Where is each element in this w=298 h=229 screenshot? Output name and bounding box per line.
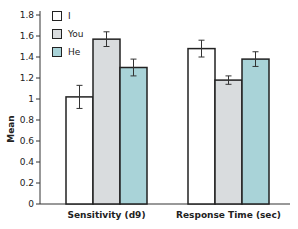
- bar-chart: 00.20.40.60.811.21.41.61.8 Mean IYouHe S…: [0, 0, 298, 229]
- category-label: Response Time (sec): [169, 210, 289, 220]
- y-tick-label: 1.6: [8, 31, 34, 41]
- y-tick-label: 1.8: [8, 10, 34, 20]
- legend-label: I: [68, 11, 71, 21]
- bar-i: [188, 49, 215, 204]
- legend-swatch: [52, 29, 62, 39]
- y-axis-label: Mean: [6, 114, 16, 144]
- legend-item-i: I: [52, 10, 71, 21]
- bar-i: [66, 97, 93, 204]
- bar-he: [242, 59, 269, 204]
- category-label: Sensitivity (d9): [47, 210, 167, 220]
- y-tick-label: 1.4: [8, 52, 34, 62]
- y-tick-label: 1.2: [8, 73, 34, 83]
- y-tick-label: 0.4: [8, 157, 34, 167]
- legend-swatch: [52, 11, 62, 21]
- legend-label: He: [68, 47, 80, 57]
- legend-label: You: [68, 29, 84, 39]
- bar-he: [120, 68, 147, 205]
- legend-item-you: You: [52, 28, 84, 39]
- plot-area: [0, 0, 298, 229]
- y-tick-label: 0: [8, 199, 34, 209]
- bar-you: [215, 80, 242, 204]
- y-tick-label: 1: [8, 94, 34, 104]
- legend-item-he: He: [52, 46, 80, 57]
- bar-you: [93, 39, 120, 204]
- legend-swatch: [52, 47, 62, 57]
- y-tick-label: 0.2: [8, 178, 34, 188]
